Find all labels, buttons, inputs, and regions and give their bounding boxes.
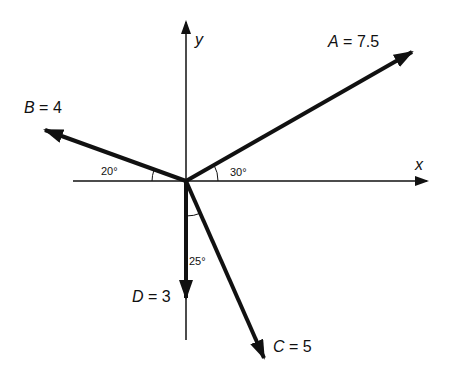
angle-label-a: 30° [230, 166, 247, 178]
angle-arc-b [152, 170, 154, 181]
angle-label-c: 25° [189, 255, 206, 267]
vector-a-arrow [186, 52, 412, 181]
vector-a-label: A = 7.5 [327, 33, 379, 50]
angle-arc-a [214, 165, 218, 181]
vector-b-label: B = 4 [24, 99, 62, 116]
vector-diagram: x y A = 7.5 B = 4 C = 5 D = 3 30° 20° 25… [0, 0, 449, 379]
vector-c-label: C = 5 [273, 338, 312, 355]
angle-label-b: 20° [101, 165, 118, 177]
vector-d-label: D = 3 [132, 288, 171, 305]
vector-c-arrow [186, 181, 264, 358]
y-axis-label: y [194, 31, 204, 48]
x-axis-label: x [414, 156, 424, 173]
